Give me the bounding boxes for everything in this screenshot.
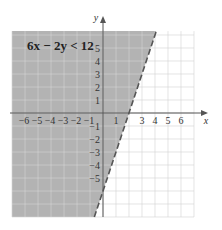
- y-axis-label: y: [93, 12, 99, 23]
- y-tick-label: 5: [95, 43, 100, 54]
- x-tick-label: −6: [19, 115, 30, 126]
- x-tick-label: 5: [166, 115, 171, 126]
- x-tick-label: 4: [153, 115, 158, 126]
- x-tick-label: 1: [114, 115, 119, 126]
- y-tick-label: −2: [89, 134, 100, 145]
- y-tick-label: 3: [95, 69, 100, 80]
- x-tick-label: −4: [45, 115, 56, 126]
- y-tick-label: 1: [95, 95, 100, 106]
- y-tick-label: −1: [89, 121, 100, 132]
- y-tick-label: −4: [89, 160, 100, 171]
- x-tick-label: −2: [71, 115, 82, 126]
- inequality-label: 6x − 2y < 12: [27, 38, 94, 54]
- x-tick-label: −5: [32, 115, 43, 126]
- y-tick-label: −3: [89, 147, 100, 158]
- y-tick-label: 2: [95, 82, 100, 93]
- x-axis-label: x: [203, 115, 209, 126]
- y-tick-label: −5: [89, 173, 100, 184]
- x-tick-label: 3: [140, 115, 145, 126]
- inequality-graph: −6−5−4−3−2−11345654321−1−2−3−4−5xy: [0, 0, 222, 230]
- y-tick-label: 4: [95, 56, 100, 67]
- y-axis-arrow-icon: [100, 16, 106, 23]
- x-tick-label: −3: [58, 115, 69, 126]
- x-tick-label: 6: [179, 115, 184, 126]
